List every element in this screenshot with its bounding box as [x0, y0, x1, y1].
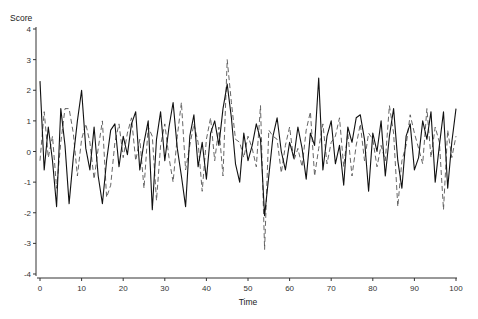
- y-tick-label: 2: [27, 86, 32, 95]
- x-tick-label: 50: [244, 284, 253, 293]
- x-tick-label: 20: [119, 284, 128, 293]
- y-tick-label: -2: [24, 209, 32, 218]
- x-tick-label: 60: [285, 284, 294, 293]
- line-chart: -4-3-2-101234 0102030405060708090100 Sco…: [0, 0, 478, 319]
- series-solid-line: [40, 78, 456, 216]
- x-axis-title: Time: [239, 297, 258, 307]
- y-tick-label: -1: [24, 178, 32, 187]
- y-tick-label: 3: [27, 56, 32, 65]
- y-tick-label: 4: [27, 25, 32, 34]
- x-tick-label: 70: [327, 284, 336, 293]
- x-tick-label: 80: [368, 284, 377, 293]
- plot-area: [40, 60, 456, 250]
- x-axis: 0102030405060708090100: [37, 278, 463, 293]
- y-axis-title: Score: [10, 13, 32, 23]
- y-axis: -4-3-2-101234: [24, 25, 36, 279]
- x-tick-label: 40: [202, 284, 211, 293]
- x-tick-label: 90: [410, 284, 419, 293]
- y-tick-label: 0: [27, 148, 32, 157]
- series-dashed-line: [40, 60, 456, 250]
- x-tick-label: 10: [77, 284, 86, 293]
- x-tick-label: 0: [38, 284, 43, 293]
- x-tick-label: 100: [449, 284, 463, 293]
- y-tick-label: 1: [27, 117, 32, 126]
- x-tick-label: 30: [160, 284, 169, 293]
- y-tick-label: -4: [24, 270, 32, 279]
- y-tick-label: -3: [24, 239, 32, 248]
